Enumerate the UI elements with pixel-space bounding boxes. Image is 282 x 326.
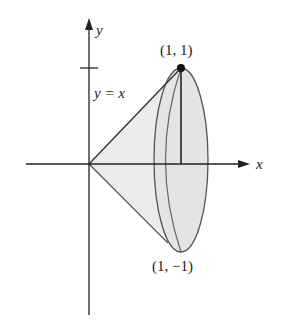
point-label-top: (1, 1)	[160, 42, 193, 59]
x-axis-arrow-icon	[238, 160, 250, 168]
point-label-bottom: (1, −1)	[152, 258, 193, 275]
x-axis-label: x	[255, 156, 263, 172]
curve-label: y = x	[92, 85, 125, 101]
cone-diagram: y x y = x (1, 1) (1, −1)	[0, 0, 282, 326]
y-axis-arrow-icon	[85, 18, 93, 30]
point-1-1	[177, 64, 185, 72]
y-axis-label: y	[94, 22, 103, 38]
